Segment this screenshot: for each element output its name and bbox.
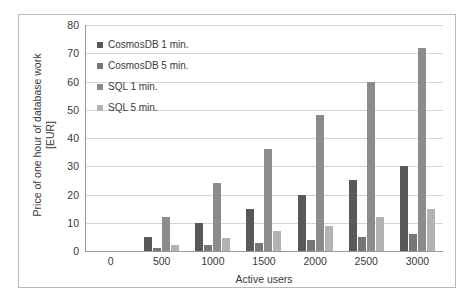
bar (162, 217, 170, 251)
legend-item[interactable]: SQL 1 min. (97, 81, 189, 92)
bar (307, 240, 315, 251)
legend-item[interactable]: SQL 5 min. (97, 102, 189, 113)
y-tick-label: 20 (67, 189, 79, 201)
bar (349, 180, 357, 251)
x-tick-label: 2500 (341, 255, 392, 267)
chart-frame: Price of one hour of database work [EUR]… (18, 14, 456, 288)
bar (222, 238, 230, 251)
bar (376, 217, 384, 251)
bar (367, 82, 375, 252)
legend-swatch-icon (97, 63, 103, 69)
bar (213, 183, 221, 251)
x-axis-title: Active users (85, 273, 443, 285)
bar-group (341, 25, 392, 251)
y-axis-title: Price of one hour of database work [EUR] (21, 19, 67, 251)
y-tick-label: 60 (67, 76, 79, 88)
x-tick-labels: 050010001500200025003000 (85, 255, 443, 267)
bar (358, 237, 366, 251)
bar-group (238, 25, 289, 251)
legend-label: SQL 1 min. (108, 81, 158, 92)
y-tick-label: 40 (67, 132, 79, 144)
bar (195, 223, 203, 251)
y-tick-label: 0 (73, 245, 79, 257)
bar (418, 48, 426, 251)
x-tick-label: 3000 (392, 255, 443, 267)
bar (298, 195, 306, 252)
y-axis-title-line-1: Price of one hour of database work (31, 54, 44, 217)
x-tick-label: 1500 (238, 255, 289, 267)
y-tick-label: 10 (67, 217, 79, 229)
x-tick-label: 2000 (290, 255, 341, 267)
bar-group (187, 25, 238, 251)
x-axis-line (85, 251, 443, 252)
legend-swatch-icon (97, 105, 103, 111)
bar (273, 231, 281, 251)
y-tick-label: 80 (67, 19, 79, 31)
bar (409, 234, 417, 251)
bar-group (290, 25, 341, 251)
legend-label: SQL 5 min. (108, 102, 158, 113)
y-tick-label: 50 (67, 104, 79, 116)
y-axis-line (85, 25, 86, 252)
bar (246, 209, 254, 251)
bar (427, 209, 435, 251)
chart-legend: CosmosDB 1 min.CosmosDB 5 min.SQL 1 min.… (97, 39, 189, 113)
x-tick-label: 500 (136, 255, 187, 267)
y-tick-label: 30 (67, 160, 79, 172)
bar (255, 243, 263, 251)
bar (400, 166, 408, 251)
bar (325, 226, 333, 251)
legend-swatch-icon (97, 42, 103, 48)
legend-item[interactable]: CosmosDB 5 min. (97, 60, 189, 71)
legend-label: CosmosDB 1 min. (108, 39, 189, 50)
bar (144, 237, 152, 251)
bar-group (392, 25, 443, 251)
legend-swatch-icon (97, 84, 103, 90)
bar (264, 149, 272, 251)
y-axis-title-line-2: [EUR] (44, 121, 57, 149)
bar (316, 115, 324, 251)
x-tick-label: 1000 (187, 255, 238, 267)
legend-item[interactable]: CosmosDB 1 min. (97, 39, 189, 50)
x-tick-label: 0 (85, 255, 136, 267)
y-tick-label: 70 (67, 47, 79, 59)
legend-label: CosmosDB 5 min. (108, 60, 189, 71)
